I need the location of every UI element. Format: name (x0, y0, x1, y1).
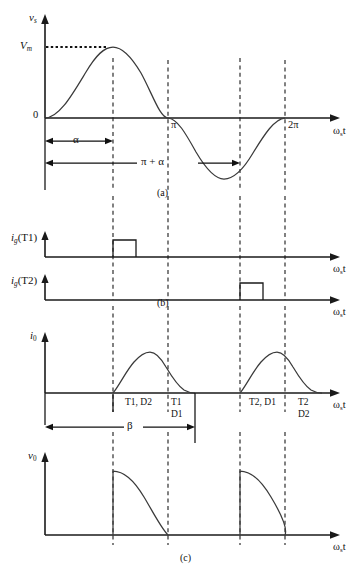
y-axis-v0-arrow (41, 452, 48, 462)
panel-gate-pulse-t1 (41, 231, 340, 261)
caption-a: (a) (157, 188, 168, 198)
conduction-label-2-line1: T1 (171, 398, 182, 408)
waveform-figure: vs Vm 0 π 2π ωst α π + α (a) ig(T1) ωst … (0, 0, 359, 571)
axis-label-i0: i0 (30, 330, 37, 343)
dimension-beta (45, 424, 195, 430)
dimension-alpha (45, 118, 113, 190)
x-axis-omega-c2-arrow (330, 531, 340, 539)
conduction-label-4-line1: T2 (298, 398, 309, 408)
axis-label-omega-b2: ωst (333, 307, 346, 318)
y-axis-vs-arrow (41, 14, 49, 24)
dimension-label-pi-plus-alpha: π + α (141, 156, 164, 167)
conduction-label-4-line2: D2 (298, 410, 310, 420)
current-pulse-2 (240, 352, 322, 393)
axis-label-omega-c2: ωst (333, 542, 346, 553)
panel-output-voltage (41, 452, 340, 539)
tick-label-pi: π (171, 120, 176, 131)
x-axis-omega-a-arrow (330, 114, 340, 122)
x-axis-omega-b2-arrow (330, 296, 340, 304)
panel-gate-pulse-t2 (41, 274, 340, 304)
caption-c: (c) (180, 553, 191, 563)
y-axis-ig-t1-arrow (41, 231, 48, 240)
y-axis-ig-t2-arrow (41, 274, 48, 283)
tick-label-zero: 0 (33, 110, 38, 121)
tick-label-two-pi: 2π (288, 120, 299, 131)
output-voltage-block-1 (113, 471, 168, 535)
panel-supply-voltage (41, 14, 340, 179)
x-axis-omega-b1-arrow (330, 253, 340, 261)
axis-label-omega-b1: ωst (333, 264, 346, 275)
y-axis-i0-arrow (41, 332, 48, 342)
caption-b: (b) (157, 298, 169, 308)
axis-label-omega-a: ωst (333, 126, 346, 137)
axis-label-vm: Vm (20, 40, 32, 53)
conduction-label-1: T1, D2 (125, 398, 152, 408)
conduction-label-3: T2, D1 (249, 398, 276, 408)
dimension-label-beta: β (127, 420, 133, 431)
gate-pulse-rect-t1 (113, 240, 136, 257)
axis-label-ig-t1: ig(T1) (11, 232, 37, 245)
conduction-label-2-line2: D1 (171, 410, 183, 420)
axis-label-ig-t2: ig(T2) (11, 275, 37, 288)
x-axis-omega-c1-arrow (330, 389, 340, 397)
dimension-label-alpha: α (73, 134, 79, 145)
axis-label-vs: vs (29, 12, 37, 25)
gate-pulse-rect-t2 (240, 283, 263, 300)
axis-label-v0: v0 (28, 450, 37, 463)
current-pulse-1 (113, 352, 195, 393)
axis-label-omega-c1: ωst (333, 400, 346, 411)
sine-waveform (45, 47, 285, 179)
figure-canvas (0, 0, 359, 571)
output-voltage-block-2 (240, 471, 286, 535)
